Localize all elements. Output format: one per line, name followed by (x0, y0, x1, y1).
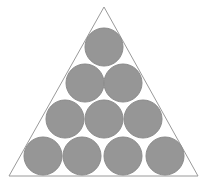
circle-r4-c1 (24, 137, 62, 175)
circle-r3-c1 (46, 100, 84, 138)
circle-row-3 (46, 100, 162, 138)
circle-row-1 (85, 28, 123, 66)
circle-r4-c2 (63, 137, 101, 175)
circle-r3-c3 (124, 100, 162, 138)
geometry-figure (0, 0, 208, 185)
circle-r4-c4 (146, 137, 184, 175)
circle-r1-c1 (85, 28, 123, 66)
figure-container (0, 0, 208, 185)
circle-r3-c2 (85, 100, 123, 138)
circle-r4-c3 (104, 137, 142, 175)
circle-r2-c2 (104, 64, 142, 102)
circle-r2-c1 (66, 64, 104, 102)
